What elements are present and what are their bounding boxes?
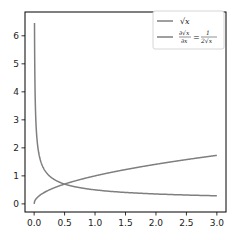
y-tick-label: 1 xyxy=(13,171,19,181)
y-tick-label: 4 xyxy=(13,87,19,97)
svg-text:∂x: ∂x xyxy=(181,37,188,44)
x-tick-label: 1.0 xyxy=(88,218,103,228)
legend-label-sqrt: √x xyxy=(180,17,190,26)
y-tick-label: 6 xyxy=(13,31,19,41)
svg-text:2√x: 2√x xyxy=(200,37,213,44)
x-tick-label: 2.0 xyxy=(149,218,164,228)
x-tick-label: 2.5 xyxy=(179,218,193,228)
x-tick-label: 1.5 xyxy=(118,218,132,228)
legend: √x ∂√x ∂x = 1 2√x xyxy=(153,11,224,49)
y-tick-label: 2 xyxy=(13,143,19,153)
y-tick-label: 0 xyxy=(13,199,19,209)
y-tick-label: 3 xyxy=(13,115,19,125)
x-tick-label: 3.0 xyxy=(210,218,225,228)
x-tick-label: 0.5 xyxy=(57,218,71,228)
x-tick-label: 0.0 xyxy=(27,218,42,228)
svg-text:1: 1 xyxy=(206,29,210,36)
svg-text:∂√x: ∂√x xyxy=(179,29,190,36)
y-tick-label: 5 xyxy=(13,59,19,69)
svg-text:=: = xyxy=(193,33,200,42)
line-chart: 0.00.51.01.52.02.53.0 0123456 √x ∂√x ∂x … xyxy=(0,0,238,240)
